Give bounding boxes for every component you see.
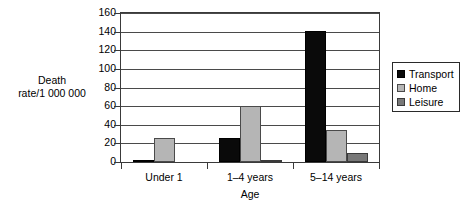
- x-tick-label-0: Under 1: [121, 171, 207, 183]
- x-tick-mark-3: [379, 163, 380, 169]
- y-tick-label-40: 40: [86, 119, 116, 130]
- legend-item-leisure: Leisure: [397, 95, 459, 109]
- legend-label-home: Home: [409, 83, 437, 94]
- y-tick-label-20: 20: [86, 137, 116, 148]
- x-tick-label-1: 1–4 years: [207, 171, 293, 183]
- bar-home-1: [240, 106, 261, 162]
- legend-swatch-transport-icon: [397, 70, 405, 78]
- bar-home-2: [326, 130, 347, 162]
- legend-label-transport: Transport: [409, 69, 454, 80]
- legend-item-home: Home: [397, 81, 459, 95]
- legend-item-transport: Transport: [397, 67, 459, 81]
- bar-leisure-2: [347, 153, 368, 162]
- x-axis-title: Age: [120, 188, 380, 200]
- y-tick-label-160: 160: [86, 7, 116, 18]
- y-axis-tick-labels: 020406080100120140160: [84, 12, 116, 163]
- bar-transport-1: [219, 138, 240, 162]
- y-tick-label-100: 100: [86, 63, 116, 74]
- y-tick-label-0: 0: [86, 156, 116, 167]
- x-tick-mark-2: [293, 163, 294, 169]
- bar-leisure-1: [261, 160, 282, 162]
- legend-label-leisure: Leisure: [409, 97, 443, 108]
- bar-chart-figure: Death rate/1 000 000 0204060801001201401…: [0, 0, 464, 204]
- legend: Transport Home Leisure: [392, 62, 460, 112]
- bars-layer: [121, 13, 379, 162]
- y-tick-label-60: 60: [86, 100, 116, 111]
- x-tick-label-2: 5–14 years: [293, 171, 379, 183]
- bar-home-0: [154, 138, 175, 162]
- legend-swatch-home-icon: [397, 84, 405, 92]
- y-tick-label-80: 80: [86, 82, 116, 93]
- legend-swatch-leisure-icon: [397, 98, 405, 106]
- bar-transport-2: [305, 31, 326, 162]
- x-tick-mark-1: [207, 163, 208, 169]
- x-tick-mark-0: [121, 163, 122, 169]
- bar-transport-0: [133, 160, 154, 162]
- y-tick-label-120: 120: [86, 44, 116, 55]
- y-tick-label-140: 140: [86, 26, 116, 37]
